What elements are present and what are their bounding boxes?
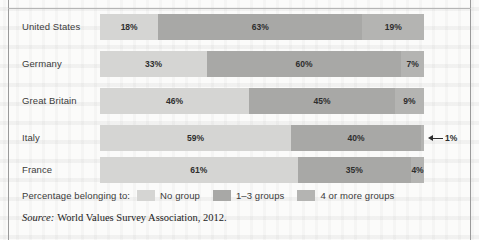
bar-segment: 61% bbox=[100, 157, 298, 183]
legend-item-4-or-more-groups: 4 or more groups bbox=[297, 190, 394, 201]
bar-segment-value: 9% bbox=[403, 96, 415, 106]
stacked-bar: 18%63%19% bbox=[100, 14, 424, 40]
legend-swatch-4-or-more-groups bbox=[297, 190, 315, 201]
bar-segment-value: 18% bbox=[121, 22, 138, 32]
bar-segment: 18% bbox=[100, 14, 158, 40]
bar-segment-value: 19% bbox=[385, 22, 402, 32]
row-label-germany: Germany bbox=[22, 51, 94, 77]
bar-segment-value: 7% bbox=[407, 59, 419, 69]
bar-segment: 59% bbox=[100, 125, 291, 151]
bar-segment: 4% bbox=[411, 157, 424, 183]
legend-label-1-3-groups: 1–3 groups bbox=[236, 190, 285, 201]
bar-segment bbox=[421, 125, 424, 151]
stacked-bar: 33%60%7% bbox=[100, 51, 424, 77]
stacked-bar: 46%45%9% bbox=[100, 88, 424, 114]
legend-label-4-or-more-groups: 4 or more groups bbox=[320, 190, 394, 201]
legend-swatch-no-group bbox=[137, 190, 155, 201]
bar-segment: 7% bbox=[401, 51, 424, 77]
legend-swatch-1-3-groups bbox=[213, 190, 231, 201]
callout-value: 1% bbox=[445, 133, 457, 143]
bar-segment: 60% bbox=[207, 51, 401, 77]
stacked-bar: 59%40% bbox=[100, 125, 424, 151]
bar-segment-value: 45% bbox=[313, 96, 330, 106]
bar-segment: 9% bbox=[395, 88, 424, 114]
chart-legend: Percentage belonging to: No group 1–3 gr… bbox=[22, 187, 407, 203]
bar-segment: 63% bbox=[158, 14, 362, 40]
bar-segment: 33% bbox=[100, 51, 207, 77]
bar-segment-value: 4% bbox=[411, 165, 423, 175]
stacked-bar: 61%35%4% bbox=[100, 157, 424, 183]
value-callout: 1% bbox=[428, 125, 457, 151]
figure-container: United States18%63%19%Germany33%60%7%Gre… bbox=[0, 0, 479, 240]
bar-segment-value: 33% bbox=[145, 59, 162, 69]
bar-segment-value: 63% bbox=[252, 22, 269, 32]
row-label-great-britain: Great Britain bbox=[22, 88, 94, 114]
bar-segment-value: 35% bbox=[346, 165, 363, 175]
legend-item-no-group: No group bbox=[137, 190, 200, 201]
source-text: World Values Survey Association, 2012. bbox=[57, 212, 226, 223]
stacked-bar-chart: United States18%63%19%Germany33%60%7%Gre… bbox=[0, 0, 479, 240]
legend-label-no-group: No group bbox=[160, 190, 200, 201]
bar-segment-value: 61% bbox=[190, 165, 207, 175]
legend-title: Percentage belonging to: bbox=[22, 190, 130, 201]
arrow-left-icon bbox=[428, 135, 443, 142]
bar-segment: 40% bbox=[291, 125, 421, 151]
source-label: Source: bbox=[22, 212, 54, 223]
bar-segment: 19% bbox=[362, 14, 424, 40]
bar-segment-value: 60% bbox=[296, 59, 313, 69]
bar-segment: 35% bbox=[298, 157, 411, 183]
source-note: Source:World Values Survey Association, … bbox=[22, 212, 227, 223]
bar-segment-value: 59% bbox=[187, 133, 204, 143]
row-label-france: France bbox=[22, 157, 94, 183]
legend-item-1-3-groups: 1–3 groups bbox=[213, 190, 285, 201]
bar-segment: 45% bbox=[249, 88, 395, 114]
row-label-united-states: United States bbox=[22, 14, 94, 40]
bar-segment: 46% bbox=[100, 88, 249, 114]
bar-segment-value: 40% bbox=[347, 133, 364, 143]
bar-segment-value: 46% bbox=[166, 96, 183, 106]
row-label-italy: Italy bbox=[22, 125, 94, 151]
